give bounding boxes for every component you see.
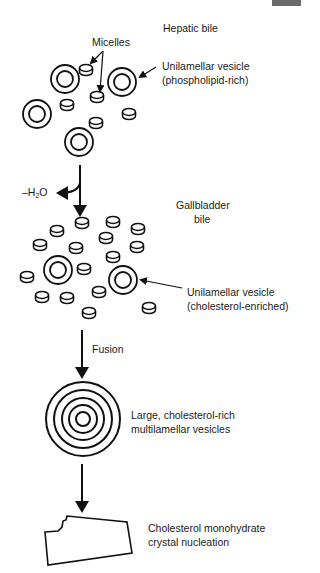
water-loss-label: –H2O bbox=[22, 186, 48, 202]
gallbladder-micelle-group bbox=[21, 217, 156, 319]
gallbladder-vesicle-label-line2: (cholesterol-enriched) bbox=[187, 300, 289, 313]
micelle-disk bbox=[61, 100, 74, 111]
micelle-disk bbox=[83, 308, 96, 319]
vesicle-outer-ring bbox=[108, 68, 136, 96]
gallbladder-bile-title-line1: Gallbladder bbox=[176, 199, 230, 212]
cholesterol-crystal-shape bbox=[45, 516, 132, 565]
hepatic-bile-title: Hepatic bile bbox=[163, 22, 218, 35]
water-loss-arrow bbox=[58, 183, 80, 193]
water-loss-suffix: O bbox=[39, 186, 47, 198]
micelle-disk bbox=[90, 118, 103, 129]
unilamellar-vesicle bbox=[108, 68, 136, 96]
micelle-disk bbox=[70, 243, 83, 254]
vesicle-outer-ring bbox=[51, 65, 79, 93]
hepatic-vesicle-label-line1: Unilamellar vesicle bbox=[162, 60, 250, 73]
micelle-disk bbox=[132, 224, 145, 235]
unilamellar-vesicle bbox=[51, 65, 79, 93]
vesicle-outer-ring bbox=[65, 128, 93, 156]
vesicle-outer-ring bbox=[44, 256, 72, 284]
micelle-disk bbox=[131, 242, 144, 253]
micelle-disk bbox=[107, 252, 120, 263]
hepatic-vesicle-group bbox=[23, 65, 136, 156]
vesicle-inner-ring bbox=[115, 272, 131, 288]
unilamellar-vesicle bbox=[23, 100, 51, 128]
unilamellar-vesicle bbox=[65, 128, 93, 156]
crystal-label-line2: crystal nucleation bbox=[148, 536, 229, 549]
micelle-disk bbox=[51, 226, 64, 237]
vesicle-inner-ring bbox=[50, 262, 66, 278]
micelle-disk bbox=[21, 272, 34, 283]
micelle-disk bbox=[100, 233, 113, 244]
vesicle-inner-ring bbox=[29, 106, 45, 122]
micelle-disk bbox=[34, 240, 47, 251]
micelle-disk bbox=[61, 293, 74, 304]
unilamellar-vesicle bbox=[109, 266, 137, 294]
unilamellar-vesicle bbox=[44, 256, 72, 284]
multilamellar-vesicle bbox=[46, 382, 120, 456]
vesicle-outer-ring bbox=[109, 266, 137, 294]
multilamellar-label-line2: multilamellar vesicles bbox=[131, 423, 230, 436]
micelle-disk bbox=[91, 92, 104, 103]
micelle-disk bbox=[80, 65, 93, 76]
lamella-ring bbox=[46, 382, 120, 456]
micelles-label: Micelles bbox=[92, 36, 130, 49]
water-loss-prefix: –H bbox=[22, 186, 35, 198]
hepatic-vesicle-label-line2: (phospholipid-rich) bbox=[162, 74, 248, 87]
multilamellar-label-line1: Large, cholesterol-rich bbox=[131, 409, 235, 422]
micelle-disk bbox=[36, 292, 49, 303]
lamella-ring bbox=[69, 405, 97, 433]
micelle-disk bbox=[143, 303, 156, 314]
lamella-ring bbox=[76, 412, 90, 426]
vesicle-inner-ring bbox=[114, 74, 130, 90]
gallbladder-vesicle-label-line1: Unilamellar vesicle bbox=[187, 286, 275, 299]
micelle-disk bbox=[93, 287, 106, 298]
gallbladder-bile-title-line2: bile bbox=[194, 213, 210, 226]
vesicle-outer-ring bbox=[23, 100, 51, 128]
vesicle-inner-ring bbox=[71, 134, 87, 150]
vesicle-inner-ring bbox=[57, 71, 73, 87]
micelle-disk bbox=[78, 264, 91, 275]
gallbladder-vesicle-pointer-arrow bbox=[141, 280, 182, 288]
crystal-label-line1: Cholesterol monohydrate bbox=[148, 522, 265, 535]
micelle-disk bbox=[123, 109, 136, 120]
gallbladder-vesicle-group bbox=[44, 256, 137, 294]
micelle-disk bbox=[76, 218, 89, 229]
micelle-disk bbox=[107, 217, 120, 228]
hepatic-vesicle-pointer-arrow bbox=[140, 67, 156, 77]
fusion-label: Fusion bbox=[92, 343, 124, 356]
